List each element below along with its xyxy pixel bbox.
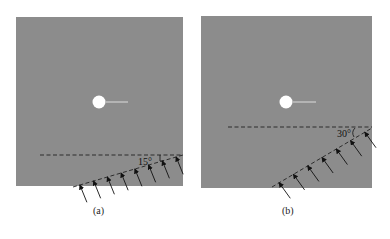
- angle-label-b: 30°: [337, 128, 351, 139]
- caption-a: (a): [93, 205, 104, 217]
- caption-b: (b): [282, 205, 294, 217]
- hole-b: [280, 96, 293, 109]
- panel-a: 15° (a): [16, 17, 183, 217]
- angle-label-a: 15°: [138, 156, 152, 167]
- panel-a-load-arrow: [80, 185, 87, 202]
- panel-b: 30° (b): [201, 16, 376, 217]
- figure-canvas: 15° (a) 30° (b): [0, 0, 390, 239]
- hole-a: [93, 96, 106, 109]
